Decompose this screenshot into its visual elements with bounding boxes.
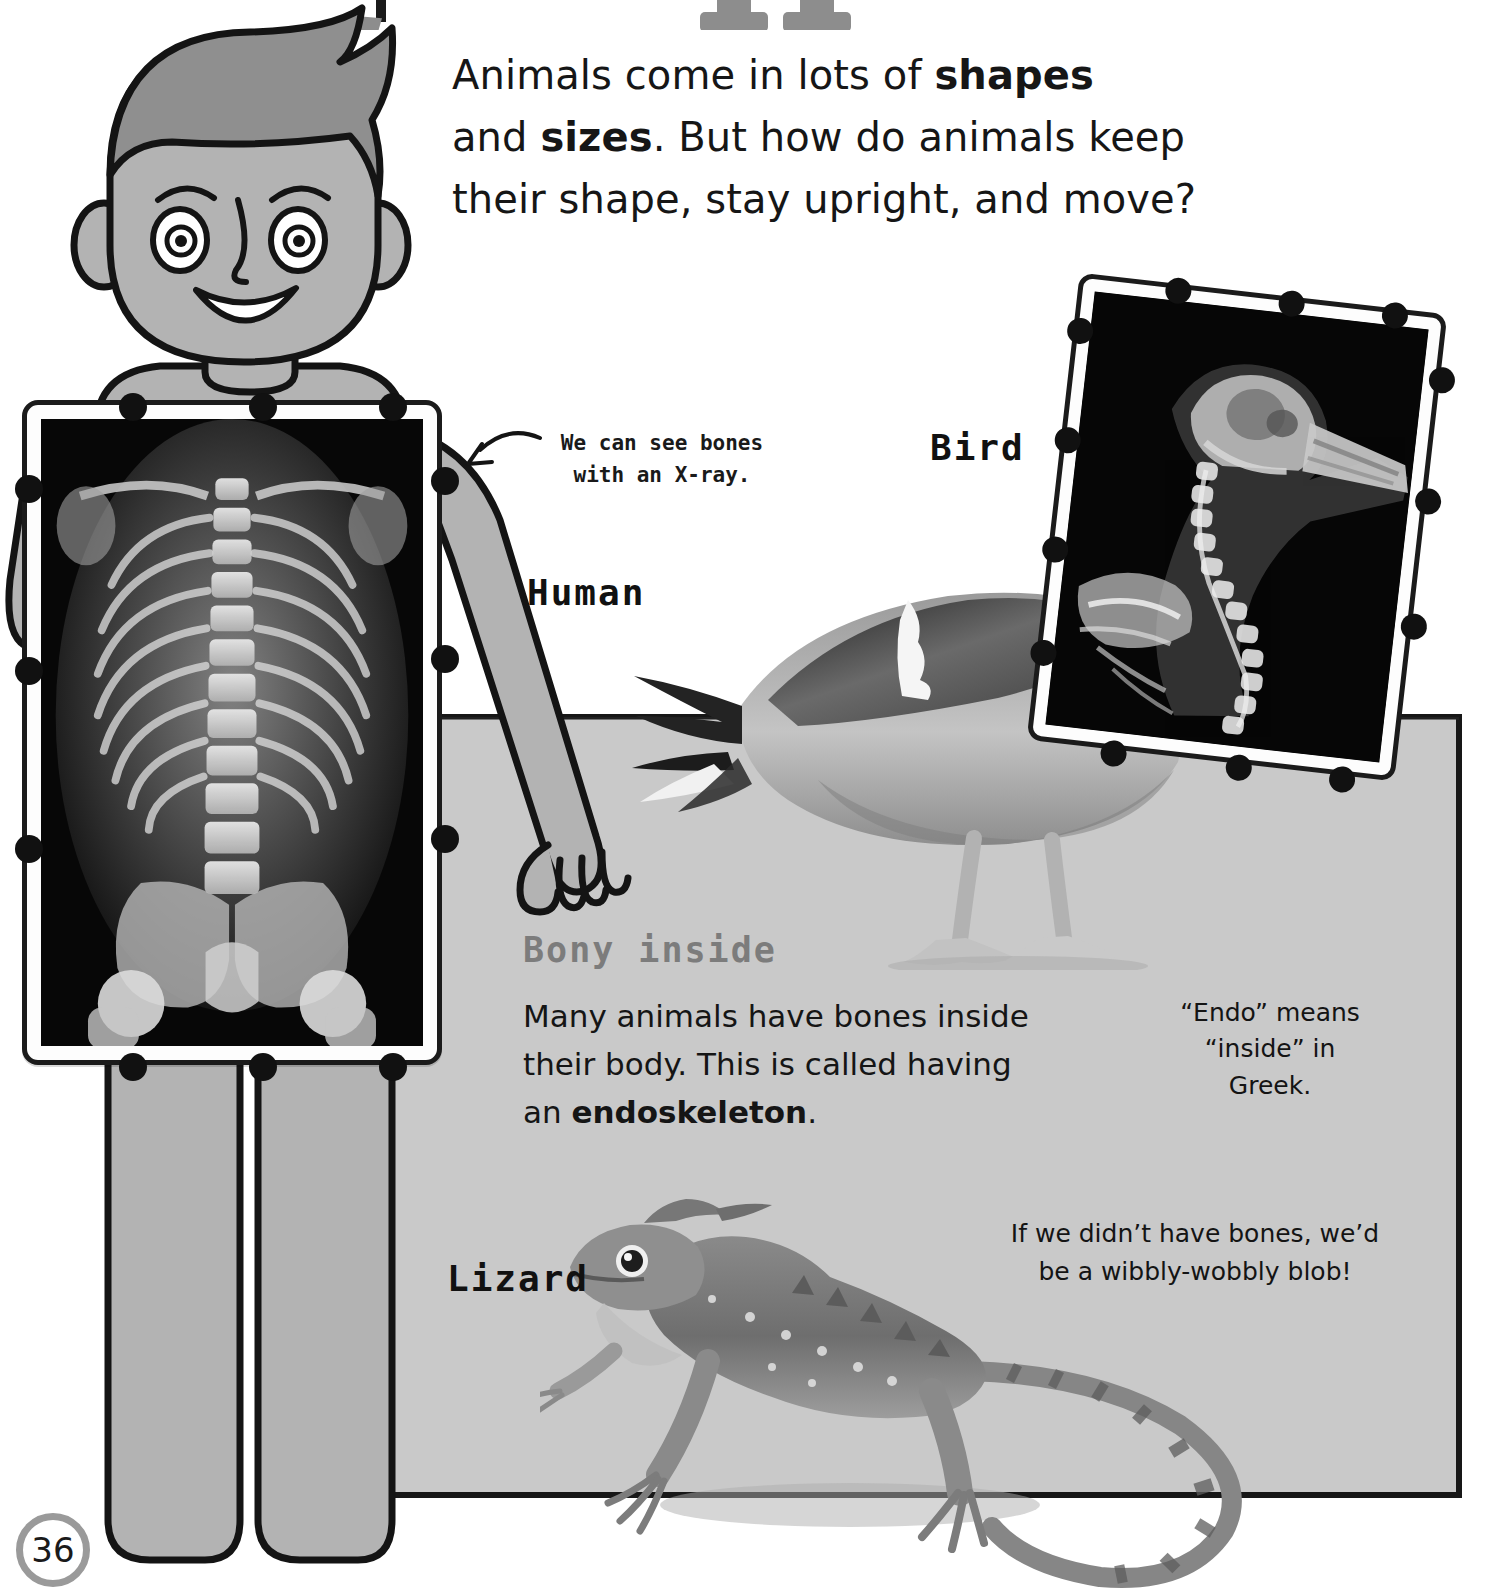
frame-clip-icon	[379, 393, 407, 421]
frame-clip-icon	[1428, 366, 1457, 395]
xray-note: We can see bones with an X-ray.	[528, 428, 796, 491]
frame-clip-icon	[379, 1053, 407, 1081]
title-glyph	[700, 12, 768, 30]
frame-clip-icon	[15, 657, 43, 685]
bony-inside-body: Many animals have bones inside their bod…	[523, 992, 1043, 1136]
human-xray-photo	[22, 400, 442, 1065]
frame-clip-icon	[431, 645, 459, 673]
intro-line2-c: . But how do animals keep	[653, 114, 1185, 160]
intro-line3: their shape, stay upright, and move?	[452, 176, 1196, 222]
intro-sizes-bold: sizes	[540, 114, 652, 160]
frame-clip-icon	[431, 825, 459, 853]
xray-note-line1: We can see bones	[528, 428, 796, 460]
intro-line2-a: and	[452, 114, 540, 160]
frame-clip-icon	[119, 1053, 147, 1081]
page-number-badge: 36	[16, 1513, 90, 1587]
human-xray-image	[41, 419, 423, 1046]
frame-clip-icon	[119, 393, 147, 421]
frame-clip-icon	[1414, 487, 1443, 516]
wibbly-blob-note: If we didn’t have bones, we’d be a wibbl…	[985, 1215, 1405, 1290]
xray-note-line2: with an X-ray.	[528, 460, 796, 492]
bird-xray-image	[1045, 291, 1428, 762]
blob-note-line1: If we didn’t have bones, we’d	[985, 1215, 1405, 1253]
label-bird: Bird	[930, 427, 1025, 468]
endo-note-line3: Greek.	[1145, 1068, 1395, 1104]
bony-inside-heading: Bony inside	[523, 930, 777, 970]
book-page: Animals come in lots of shapes and sizes…	[0, 0, 1497, 1593]
intro-paragraph: Animals come in lots of shapes and sizes…	[452, 44, 1282, 230]
frame-clip-icon	[249, 1053, 277, 1081]
endo-note-line2: “inside” in	[1145, 1031, 1395, 1067]
blob-note-line2: be a wibbly-wobbly blob!	[985, 1253, 1405, 1291]
label-lizard: Lizard	[447, 1258, 589, 1299]
title-glyph	[783, 12, 851, 30]
intro-line1-a: Animals come in lots of	[452, 52, 934, 98]
bony-body-c: .	[807, 1094, 817, 1130]
intro-shapes-bold: shapes	[934, 52, 1093, 98]
endoskeleton-bold: endoskeleton	[572, 1094, 808, 1130]
endo-meaning-note: “Endo” means “inside” in Greek.	[1145, 995, 1395, 1104]
frame-clip-icon	[15, 475, 43, 503]
label-human: Human	[527, 572, 645, 613]
frame-clip-icon	[249, 393, 277, 421]
frame-clip-icon	[15, 835, 43, 863]
endo-note-line1: “Endo” means	[1145, 995, 1395, 1031]
frame-clip-icon	[1399, 612, 1428, 641]
bird-xray-photo	[1027, 273, 1448, 782]
